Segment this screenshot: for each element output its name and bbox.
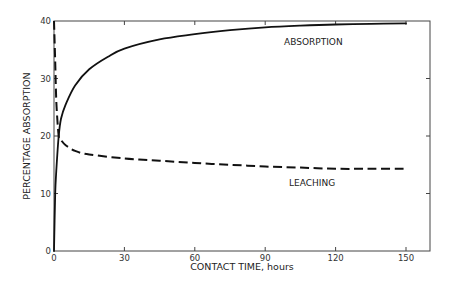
absorption-label: ABSORPTION [284, 37, 343, 47]
x-tick-label: 0 [51, 253, 56, 263]
y-tick-label: 10 [40, 189, 51, 199]
x-tick-label: 30 [119, 253, 130, 263]
y-axis-title: PERCENTAGE ABSORPTION [21, 72, 32, 199]
leaching-curve [54, 21, 406, 169]
y-tick-label: 40 [40, 16, 51, 26]
leaching-label: LEACHING [289, 178, 335, 188]
absorption-curve [54, 23, 406, 251]
x-axis-title: CONTACT TIME, hours [190, 261, 294, 272]
x-tick-label: 120 [327, 253, 343, 263]
x-tick-label: 150 [398, 253, 414, 263]
y-tick-label: 0 [46, 246, 51, 256]
chart: 0306090120150 010203040 ABSORPTION LEACH… [0, 0, 451, 285]
y-tick-label: 20 [40, 131, 51, 141]
y-axis-ticks: 010203040 [40, 16, 430, 256]
y-tick-label: 30 [40, 74, 51, 84]
